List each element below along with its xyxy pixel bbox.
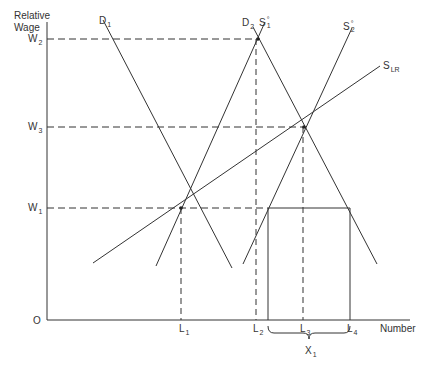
slr-curve [93,66,380,263]
x-axis-label: Number [380,324,416,334]
w1-label: W1 [28,203,42,213]
y-axis-label: Relative Wage [14,11,50,33]
y-axis-label-line2: Wage [14,23,50,33]
equilibrium-point-3 [302,125,306,129]
l2-label: L2 [253,324,263,334]
w3-label: W3 [28,122,42,132]
x1-label: X1 [305,346,317,356]
d2-label: D2 [242,18,254,28]
l3-label: L3 [300,324,310,334]
equilibrium-point-1 [179,206,183,210]
slr-label: SLR [383,61,400,71]
d1-curve [103,20,232,268]
s1-curve [156,22,265,266]
d1-label: D1 [99,16,111,26]
origin-label: O [33,316,41,326]
l4-label: L4 [347,324,357,334]
s2-label: S°2 [343,22,356,32]
labor-market-diagram [0,0,431,373]
equilibrium-point-2 [256,37,260,41]
l1-label: L1 [179,324,189,334]
y-axis-label-line1: Relative [14,11,50,21]
w2-label: W2 [28,34,42,44]
s2-curve [243,28,352,264]
d2-curve [253,27,377,264]
s1-label: S°1 [259,18,272,28]
